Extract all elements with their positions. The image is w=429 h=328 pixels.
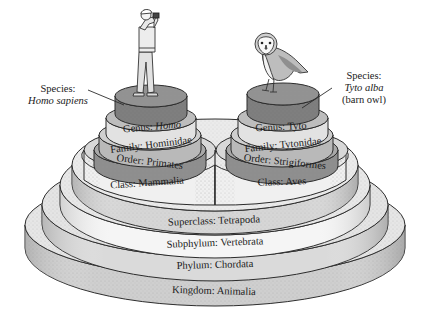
species-heading-right: Species: — [347, 70, 382, 81]
label-kingdom: Kingdom: Animalia — [172, 284, 256, 297]
label-class-right: Class: Aves — [258, 175, 307, 188]
species-common-name-right: (barn owl) — [342, 94, 387, 106]
taxonomy-diagram: Kingdom: Animalia Phylum: Chordata Subph… — [0, 0, 429, 328]
human-figure-icon — [133, 10, 159, 96]
label-phylum: Phylum: Chordata — [176, 258, 253, 271]
species-name-right: Tyto alba — [344, 82, 383, 93]
species-callout-right: Species: Tyto alba (barn owl) — [342, 70, 387, 106]
species-heading-left: Species: — [41, 83, 76, 94]
species-name-left: Homo sapiens — [27, 95, 88, 106]
species-callout-left: Species: Homo sapiens — [27, 83, 88, 106]
